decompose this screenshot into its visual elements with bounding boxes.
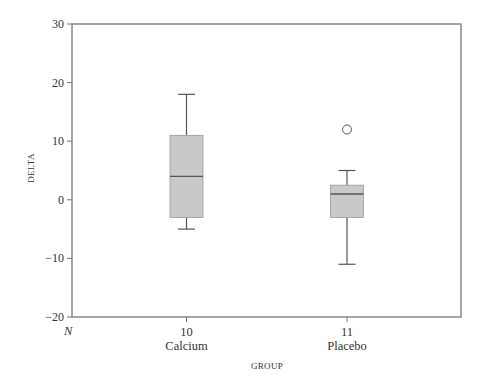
plot-frame bbox=[72, 24, 461, 317]
n-row-label: N bbox=[63, 324, 73, 338]
box-series bbox=[170, 94, 364, 264]
box-placebo bbox=[331, 125, 364, 264]
category-label-calcium: Calcium bbox=[165, 339, 208, 353]
y-tick-label: 10 bbox=[52, 134, 64, 148]
x-axis-title: GROUP bbox=[251, 361, 283, 371]
y-axis-title: DELTA bbox=[26, 153, 36, 183]
n-count-placebo: 11 bbox=[341, 325, 353, 339]
y-tick-label: 30 bbox=[52, 17, 64, 31]
y-tick-label: 0 bbox=[58, 193, 64, 207]
plot-border bbox=[72, 24, 461, 317]
y-tick-label: −20 bbox=[45, 310, 64, 324]
y-tick-label: −10 bbox=[45, 251, 64, 265]
y-axis: −20−100102030 bbox=[45, 17, 72, 324]
y-tick-label: 20 bbox=[52, 76, 64, 90]
n-count-calcium: 10 bbox=[180, 325, 193, 339]
iqr-box bbox=[331, 185, 364, 217]
box-calcium bbox=[170, 94, 203, 229]
x-axis: 10Calcium11Placebo bbox=[165, 317, 366, 353]
category-label-placebo: Placebo bbox=[327, 339, 367, 353]
box-plot-chart: −20−100102030 10Calcium11Placebo DELTA G… bbox=[0, 0, 483, 391]
outlier-point bbox=[343, 125, 352, 134]
